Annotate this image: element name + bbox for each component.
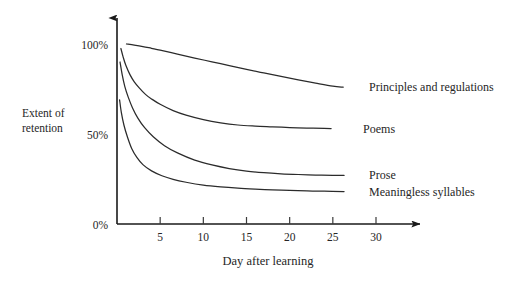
- forgetting-curve-chart: 51015202530 100%50%0% Principles and reg…: [0, 0, 525, 293]
- x-tick-label-20: 20: [284, 231, 296, 243]
- series-label-principles-and-regulations: Principles and regulations: [369, 80, 494, 94]
- series-label-poems: Poems: [363, 122, 395, 136]
- x-tick-label-25: 25: [327, 231, 339, 243]
- x-tick-label-15: 15: [241, 231, 253, 243]
- series-labels: Principles and regulationsPoemsProseMean…: [363, 80, 494, 198]
- y-axis-title-line2: retention: [22, 122, 63, 134]
- x-tick-label-30: 30: [370, 231, 382, 243]
- series-label-prose: Prose: [369, 168, 396, 182]
- series-label-meaningless-syllables: Meaningless syllables: [369, 185, 475, 199]
- y-tick-labels: 100%50%0%: [81, 39, 108, 231]
- y-tick-label-100pct: 100%: [81, 39, 108, 51]
- curve-prose: [120, 62, 344, 175]
- curve-poems: [121, 49, 331, 129]
- y-tick-label-0pct: 0%: [93, 219, 109, 231]
- x-tick-marks: [160, 217, 376, 224]
- curve-meaningless-syllables: [120, 100, 344, 192]
- x-tick-labels: 51015202530: [157, 231, 382, 243]
- x-tick-label-5: 5: [157, 231, 163, 243]
- curve-principles-and-regulations: [127, 44, 344, 87]
- series-curves: [120, 44, 344, 192]
- y-tick-label-50pct: 50%: [87, 129, 109, 141]
- y-axis-title-line1: Extent of: [22, 107, 65, 119]
- x-tick-label-10: 10: [198, 231, 210, 243]
- chart-canvas: 51015202530 100%50%0% Principles and reg…: [0, 0, 525, 293]
- x-axis-title: Day after learning: [223, 254, 315, 268]
